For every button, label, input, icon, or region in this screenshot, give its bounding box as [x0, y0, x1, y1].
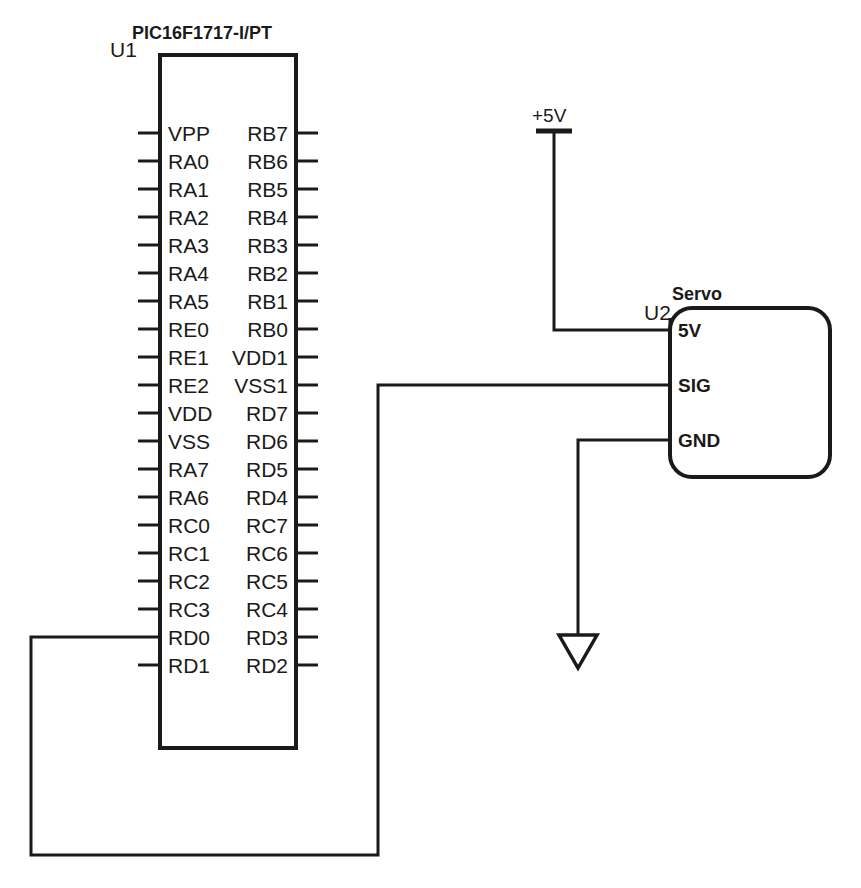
pin-label-ra1: RA1: [168, 178, 209, 201]
pin-label-rd2: RD2: [246, 654, 288, 677]
pin-label-vss1: VSS1: [234, 374, 288, 397]
ground-triangle-icon: [559, 635, 597, 668]
pin-label-ra6: RA6: [168, 486, 209, 509]
wire-rd0-to-sig: [31, 385, 670, 855]
pin-label-rb6: RB6: [247, 150, 288, 173]
pin-label-rc0: RC0: [168, 514, 210, 537]
pin-label-rd4: RD4: [246, 486, 288, 509]
pin-label-re1: RE1: [168, 346, 209, 369]
pin-label-rb2: RB2: [247, 262, 288, 285]
pin-label-rc3: RC3: [168, 598, 210, 621]
u1-right-pin-stubs: [296, 133, 318, 665]
pin-label-rb3: RB3: [247, 234, 288, 257]
pin-label-rc7: RC7: [246, 514, 288, 537]
ground-symbol[interactable]: [559, 635, 597, 668]
pin-label-re0: RE0: [168, 318, 209, 341]
component-u1-mcu[interactable]: VPP RA0 RA1 RA2 RA3 RA4 RA5 RE0 RE1 RE2 …: [110, 23, 318, 748]
u2-pin-label-gnd: GND: [678, 430, 720, 451]
power-rail-5v[interactable]: +5V: [532, 105, 572, 131]
pin-label-re2: RE2: [168, 374, 209, 397]
pin-label-vdd: VDD: [168, 402, 212, 425]
pin-label-rb5: RB5: [247, 178, 288, 201]
pin-label-rb1: RB1: [247, 290, 288, 313]
power-rail-label: +5V: [532, 105, 567, 126]
u2-part-title: Servo: [672, 284, 722, 304]
u1-part-number: PIC16F1717-I/PT: [132, 23, 272, 43]
u2-reference-designator: U2: [644, 301, 671, 324]
component-u2-servo[interactable]: 5V SIG GND Servo U2: [644, 284, 830, 477]
u1-reference-designator: U1: [110, 38, 137, 61]
pin-label-rc1: RC1: [168, 542, 210, 565]
pin-label-ra0: RA0: [168, 150, 209, 173]
pin-label-ra4: RA4: [168, 262, 209, 285]
wire-servo-gnd-to-ground: [578, 440, 670, 635]
pin-label-rc6: RC6: [246, 542, 288, 565]
pin-label-ra2: RA2: [168, 206, 209, 229]
pin-label-rd5: RD5: [246, 458, 288, 481]
pin-label-rd6: RD6: [246, 430, 288, 453]
pin-label-rc4: RC4: [246, 598, 288, 621]
net-rd0-to-servo-sig: [31, 385, 670, 855]
pin-label-rc5: RC5: [246, 570, 288, 593]
pin-label-ra5: RA5: [168, 290, 209, 313]
pin-label-ra7: RA7: [168, 458, 209, 481]
pin-label-vdd1: VDD1: [232, 346, 288, 369]
pin-label-rd0: RD0: [168, 626, 210, 649]
net-servo-gnd-to-ground: [578, 440, 670, 635]
pin-label-ra3: RA3: [168, 234, 209, 257]
schematic-canvas: VPP RA0 RA1 RA2 RA3 RA4 RA5 RE0 RE1 RE2 …: [0, 0, 861, 888]
pin-label-vpp: VPP: [168, 122, 210, 145]
pin-label-vss: VSS: [168, 430, 210, 453]
u2-pin-label-5v: 5V: [678, 320, 702, 341]
schematic-drawing: VPP RA0 RA1 RA2 RA3 RA4 RA5 RE0 RE1 RE2 …: [0, 0, 861, 888]
pin-label-rb0: RB0: [247, 318, 288, 341]
u2-pin-label-sig: SIG: [678, 375, 711, 396]
pin-label-rd7: RD7: [246, 402, 288, 425]
pin-label-rb7: RB7: [247, 122, 288, 145]
pin-label-rd3: RD3: [246, 626, 288, 649]
pin-label-rb4: RB4: [247, 206, 288, 229]
u1-left-pin-stubs: [138, 133, 160, 665]
pin-label-rd1: RD1: [168, 654, 210, 677]
pin-label-rc2: RC2: [168, 570, 210, 593]
